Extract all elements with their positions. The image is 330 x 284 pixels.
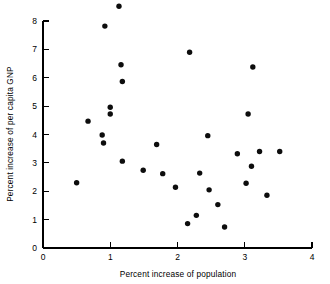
data-point xyxy=(120,158,125,163)
y-tick-label: 2 xyxy=(32,186,37,196)
y-tick-label: 1 xyxy=(32,215,37,225)
x-tick-label: 2 xyxy=(175,252,180,262)
data-point xyxy=(173,185,178,190)
tick-group xyxy=(43,21,312,248)
data-point xyxy=(120,79,125,84)
data-point xyxy=(141,168,146,173)
data-point xyxy=(250,64,255,69)
data-point xyxy=(185,221,190,226)
data-point xyxy=(108,111,113,116)
x-axis-title: Percent increase of population xyxy=(120,269,237,279)
data-point xyxy=(257,149,262,154)
data-point xyxy=(85,118,90,123)
data-point xyxy=(235,151,240,156)
data-point xyxy=(206,187,211,192)
data-point xyxy=(108,105,113,110)
y-tick-label: 4 xyxy=(32,130,37,140)
x-tick-label: 4 xyxy=(310,252,315,262)
data-point xyxy=(154,142,159,147)
y-tick-label: 0 xyxy=(32,243,37,253)
data-point xyxy=(99,132,104,137)
data-point xyxy=(264,193,269,198)
data-point-group xyxy=(74,4,282,230)
data-point xyxy=(101,140,106,145)
scatter-plot-figure: 01234012345678 Percent increase of popul… xyxy=(0,0,330,284)
plot-canvas: 01234012345678 Percent increase of popul… xyxy=(0,0,330,284)
data-point xyxy=(222,224,227,229)
data-point xyxy=(215,202,220,207)
data-point xyxy=(243,181,248,186)
data-point xyxy=(118,62,123,67)
y-tick-label: 5 xyxy=(32,101,37,111)
data-point xyxy=(187,50,192,55)
data-point xyxy=(74,180,79,185)
axis-group xyxy=(43,21,312,248)
y-axis-title: Percent increase of per capita GNP xyxy=(5,66,15,202)
data-point xyxy=(277,149,282,154)
data-point xyxy=(102,23,107,28)
data-point xyxy=(197,170,202,175)
y-tick-label: 7 xyxy=(32,44,37,54)
data-point xyxy=(249,164,254,169)
data-point xyxy=(160,171,165,176)
x-tick-label: 0 xyxy=(41,252,46,262)
x-tick-label: 1 xyxy=(108,252,113,262)
x-tick-label: 3 xyxy=(242,252,247,262)
y-tick-label: 8 xyxy=(32,16,37,26)
tick-label-group: 01234012345678 xyxy=(32,16,314,262)
y-tick-label: 6 xyxy=(32,73,37,83)
data-point xyxy=(194,213,199,218)
data-point xyxy=(245,111,250,116)
data-point xyxy=(205,133,210,138)
data-point xyxy=(116,4,121,9)
y-tick-label: 3 xyxy=(32,158,37,168)
